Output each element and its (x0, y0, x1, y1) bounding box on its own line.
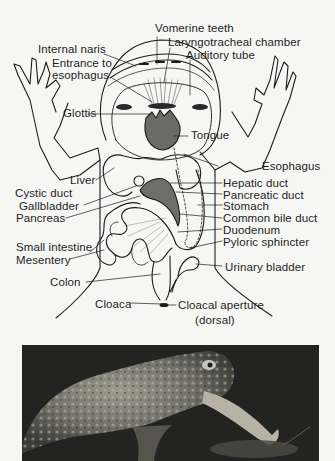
frog-anatomy-diagram: Vomerine teeth Laryngotracheal chamber A… (0, 0, 335, 335)
colon-shape (152, 256, 170, 300)
label-internal-naris: Internal naris (38, 43, 106, 55)
label-gallbladder: Gallbladder (19, 200, 79, 212)
label-hepatic-duct: Hepatic duct (223, 177, 288, 189)
label-stomach: Stomach (223, 200, 269, 212)
label-urinary-bladder: Urinary bladder (225, 261, 305, 273)
label-pancreas: Pancreas (16, 212, 65, 224)
label-esophagus: Esophagus (262, 160, 320, 172)
label-small-intestine: Small intestine (16, 241, 92, 253)
label-cloaca: Cloaca (95, 298, 131, 310)
label-common-bile-duct: Common bile duct (223, 212, 317, 224)
label-pyloric-sphincter: Pyloric sphincter (223, 236, 309, 248)
label-tongue: Tongue (191, 129, 229, 141)
prey (210, 440, 298, 458)
small-intestine-shape (97, 203, 176, 265)
toad-photo (22, 345, 319, 461)
label-liver: Liver (70, 174, 95, 186)
label-glottis: Glottis (63, 107, 96, 119)
label-mesentery: Mesentery (16, 254, 71, 266)
label-laryngotracheal-chamber: Laryngotracheal chamber (168, 36, 301, 48)
label-dorsal: (dorsal) (195, 314, 235, 326)
toad-photo-illustration (22, 345, 319, 461)
label-colon: Colon (50, 276, 81, 288)
label-duodenum: Duodenum (223, 224, 280, 236)
label-cystic-duct: Cystic duct (15, 187, 72, 199)
label-auditory-tube: Auditory tube (186, 49, 255, 61)
label-vomerine-teeth: Vomerine teeth (155, 22, 234, 34)
label-cloacal-aperture: Cloacal aperture (178, 299, 264, 311)
tongue-shape (145, 110, 180, 150)
urinary-bladder-shape (172, 257, 199, 292)
label-entrance-to: Entrance to (52, 57, 112, 69)
label-esophagus-entrance: esophagus (52, 69, 109, 81)
pancreas-shape (140, 179, 180, 226)
